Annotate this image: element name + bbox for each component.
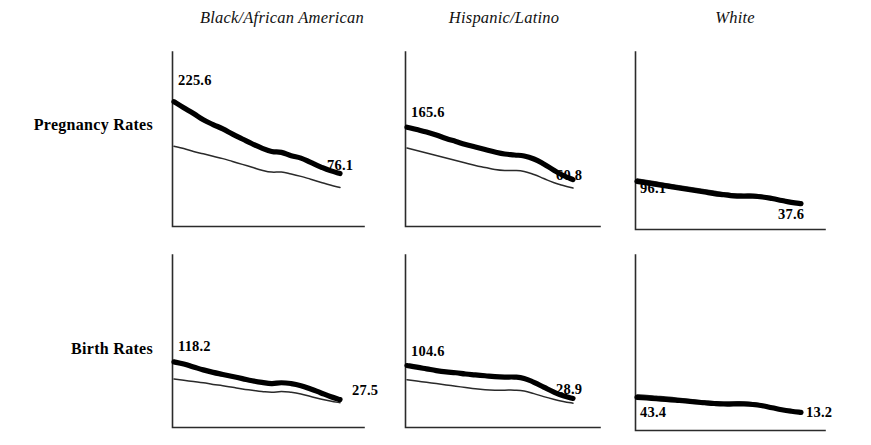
value-label-start-pregnancy-hispanic: 165.6 [411, 104, 445, 120]
column-header-black-african-american: Black/African American [152, 8, 412, 28]
value-label-start-birth-white: 43.4 [640, 404, 666, 420]
value-label-start-birth-hispanic: 104.6 [411, 343, 445, 359]
series-thick-line [407, 366, 573, 399]
value-label-start-birth-black: 118.2 [178, 338, 211, 354]
panel-axes [406, 255, 601, 428]
value-label-start-pregnancy-black: 225.6 [178, 72, 212, 88]
series-thick-line [407, 127, 573, 179]
panel-pregnancy-hispanic-latino [401, 50, 604, 232]
row-label-pregnancy-rates: Pregnancy Rates [0, 116, 153, 134]
panel-plot-area [401, 50, 604, 232]
row-label-birth-rates: Birth Rates [0, 340, 153, 358]
value-label-end-pregnancy-black: 76.1 [327, 157, 353, 173]
column-header-white: White [632, 8, 838, 28]
value-label-start-pregnancy-white: 96.1 [640, 180, 666, 196]
value-label-end-birth-hispanic: 28.9 [556, 381, 582, 397]
small-multiples-figure: Black/African American Hispanic/Latino W… [0, 0, 871, 445]
value-label-end-pregnancy-white: 37.6 [778, 206, 804, 222]
value-label-end-birth-black: 27.5 [352, 382, 378, 398]
panel-axes [406, 52, 601, 227]
series-thick-line [174, 362, 340, 400]
series-thick-line [174, 102, 340, 174]
value-label-end-birth-white: 13.2 [806, 404, 832, 420]
value-label-end-pregnancy-hispanic: 60.8 [556, 167, 582, 183]
column-header-hispanic-latino: Hispanic/Latino [390, 8, 618, 28]
